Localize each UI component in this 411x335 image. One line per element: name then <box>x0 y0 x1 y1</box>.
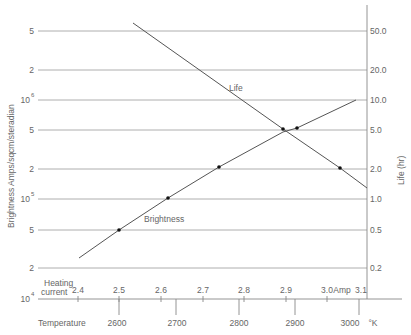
brightness-life-chart: 5 2 10 6 5 2 10 5 5 2 10 4 50.0 20.0 10.… <box>0 0 411 335</box>
right-tick: 1.0 <box>370 194 382 204</box>
left-tick: 5 <box>29 125 34 135</box>
temperature-tick: 3000 <box>341 318 360 328</box>
gridlines <box>38 31 367 268</box>
left-tick: 10 <box>21 294 31 304</box>
data-point <box>295 126 299 130</box>
current-tick: 2.7 <box>197 285 209 295</box>
heating-current-scale: Heating current 2.4 2.5 2.6 2.7 2.8 2.9 … <box>41 278 367 302</box>
right-axis-labels: 50.0 20.0 10.0 5.0 2.0 1.0 0.5 0.2 <box>370 26 387 273</box>
current-tick: 2.5 <box>113 285 125 295</box>
series-brightness: Brightness <box>79 100 356 258</box>
current-tick: 2.6 <box>155 285 167 295</box>
left-tick: 10 <box>21 194 31 204</box>
left-axis-labels: 5 2 10 6 5 2 10 5 5 2 10 4 <box>21 26 35 304</box>
temperature-scale: Temperature 2600 2700 2800 2900 3000 °K <box>38 299 378 328</box>
left-axis-title: Brightness Amps/sqcm/steradian <box>6 104 16 228</box>
right-tick: 20.0 <box>370 65 387 75</box>
right-axis-title: Life (hr) <box>396 156 406 185</box>
data-point <box>117 228 121 232</box>
temperature-label: Temperature <box>38 318 86 328</box>
series-label-life: Life <box>229 83 243 93</box>
temperature-unit: °K <box>368 318 377 328</box>
left-tick: 5 <box>29 26 34 36</box>
temperature-tick: 2800 <box>230 318 249 328</box>
left-tick: 2 <box>29 65 34 75</box>
left-tick: 2 <box>29 263 34 273</box>
current-tick: 2.9 <box>280 285 292 295</box>
series-label-brightness: Brightness <box>144 214 184 224</box>
right-tick: 50.0 <box>370 26 387 36</box>
left-tick-exponent: 6 <box>31 92 35 98</box>
right-tick: 0.5 <box>370 225 382 235</box>
right-tick: 10.0 <box>370 95 387 105</box>
temperature-tick: 2600 <box>108 318 127 328</box>
left-tick: 2 <box>29 164 34 174</box>
left-tick: 5 <box>29 225 34 235</box>
temperature-tick: 2900 <box>286 318 305 328</box>
right-tick: 2.0 <box>370 164 382 174</box>
left-tick-exponent: 5 <box>31 191 35 197</box>
heating-label-line2: current <box>41 287 68 297</box>
data-point <box>166 196 170 200</box>
left-tick-exponent: 4 <box>31 291 35 297</box>
current-tick: 2.4 <box>72 285 84 295</box>
data-point <box>217 165 221 169</box>
series-life: Life <box>133 23 367 188</box>
current-tick: 2.8 <box>238 285 250 295</box>
left-tick: 10 <box>21 95 31 105</box>
current-unit: Amp <box>333 285 351 295</box>
temperature-tick: 2700 <box>168 318 187 328</box>
current-tick: 3.1 <box>355 285 367 295</box>
current-tick: 3.0 <box>321 285 333 295</box>
data-point <box>338 166 342 170</box>
right-tick: 5.0 <box>370 125 382 135</box>
data-point <box>281 127 285 131</box>
right-tick: 0.2 <box>370 263 382 273</box>
